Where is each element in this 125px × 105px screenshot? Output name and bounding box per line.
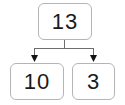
part-node-left[interactable]: 10 xyxy=(10,63,64,100)
number-bond-diagram: 13 10 3 xyxy=(0,0,125,105)
whole-node-value: 13 xyxy=(52,11,78,33)
part-node-right-value: 3 xyxy=(87,71,100,93)
part-node-right[interactable]: 3 xyxy=(72,63,115,100)
part-node-left-value: 10 xyxy=(24,71,50,93)
arrowhead-down-right-icon xyxy=(90,55,97,62)
arrowhead-down-left-icon xyxy=(31,55,38,62)
whole-node[interactable]: 13 xyxy=(38,3,92,40)
